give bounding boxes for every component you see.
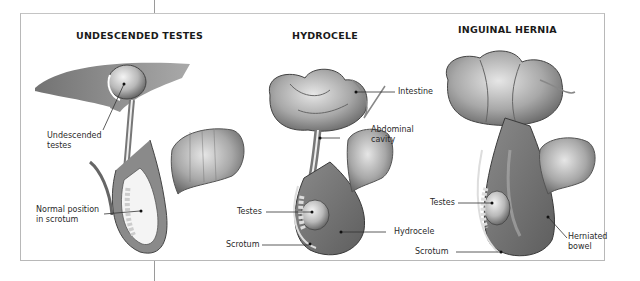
panel-title-hydrocele: HYDROCELE xyxy=(292,30,358,41)
hydrocele-illustration xyxy=(262,69,395,255)
inguinal-hernia-illustration xyxy=(446,51,595,256)
label-hydrocele: Hydrocele xyxy=(394,227,434,237)
label-abdominal-cavity: Abdominal cavity xyxy=(371,125,414,145)
label-scrotum-hydrocele: Scrotum xyxy=(226,240,259,250)
label-scrotum-hernia: Scrotum xyxy=(415,247,448,257)
label-testes-hydrocele: Testes xyxy=(237,207,262,217)
panel-title-inguinal-hernia: INGUINAL HERNIA xyxy=(458,24,557,35)
label-herniated-bowel: Herniated bowel xyxy=(568,232,607,252)
panel-title-undescended-testes: UNDESCENDED TESTES xyxy=(76,30,203,41)
label-normal-position: Normal position in scrotum xyxy=(36,205,99,225)
label-undescended-testes: Undescended testes xyxy=(47,131,102,151)
label-testes-hernia: Testes xyxy=(430,198,455,208)
label-intestine: Intestine xyxy=(398,87,433,97)
